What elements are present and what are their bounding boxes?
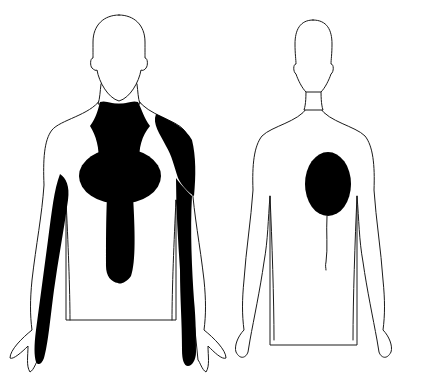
shaded-chest-region xyxy=(79,148,161,204)
shaded-interscapular-region xyxy=(305,152,351,216)
back-head-outline xyxy=(294,20,334,92)
back-view-figure xyxy=(235,20,391,357)
back-body-outline xyxy=(235,108,391,357)
front-view-figure xyxy=(10,15,226,372)
front-head-outline xyxy=(91,15,148,101)
diagram-canvas xyxy=(0,0,422,379)
shaded-epigastric-region xyxy=(106,196,135,284)
